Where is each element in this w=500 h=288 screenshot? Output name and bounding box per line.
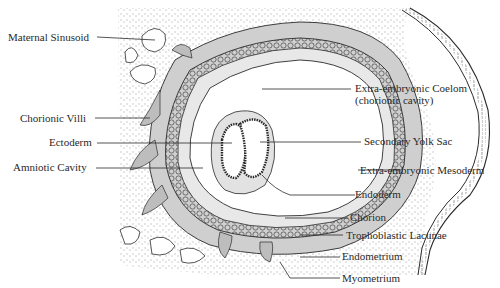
label-secondary-yolk-sac: Secondary Yolk Sac [364, 135, 452, 147]
label-myometrium: Myometrium [342, 272, 400, 284]
label-extra-embryonic-mesoderm: Extra-embryonic Mesoderm [360, 164, 484, 176]
label-endoderm: Endoderm [355, 188, 401, 200]
amnion-yolk-sac-complex [211, 111, 275, 194]
label-extra-embryonic-coelom: Extra-embryonic Coelom (chorionic cavity… [355, 82, 467, 106]
label-trophoblastic-lacunae: Trophoblastic Lacunae [346, 229, 447, 241]
label-amniotic-cavity: Amniotic Cavity [13, 161, 87, 173]
label-ectoderm: Ectoderm [49, 136, 92, 148]
label-chorion: Chorion [350, 211, 386, 223]
label-maternal-sinusoid: Maternal Sinusoid [8, 31, 89, 43]
label-chorionic-villi: Chorionic Villi [20, 112, 86, 124]
label-endometrium: Endometrium [342, 250, 403, 262]
